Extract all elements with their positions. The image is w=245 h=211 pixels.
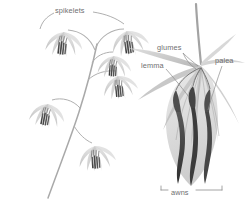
spikelet-1 (45, 30, 84, 59)
spikelet-3 (97, 55, 132, 80)
leader-spikelets-left (40, 13, 54, 29)
branch-5 (52, 99, 80, 108)
label-awns: awns (171, 189, 189, 197)
spikelet-6 (78, 145, 116, 173)
label-spikelets: spikelets (55, 7, 85, 15)
spikelet-5 (28, 101, 67, 131)
label-lemma: lemma (141, 62, 164, 70)
branch-6 (74, 126, 92, 143)
spikelet-4 (102, 74, 139, 101)
spikelet-detail-group (128, 4, 245, 190)
label-palea: palea (215, 57, 234, 65)
leader-spikelets-right (93, 12, 124, 24)
main-stem (48, 44, 97, 198)
illustration-canvas: spikelets glumes lemma palea awns (0, 0, 245, 211)
botanical-illustration (0, 0, 245, 211)
pedicel (196, 4, 201, 64)
panicle-group (28, 12, 150, 198)
label-glumes: glumes (157, 44, 181, 52)
spikelet-2 (110, 28, 150, 58)
